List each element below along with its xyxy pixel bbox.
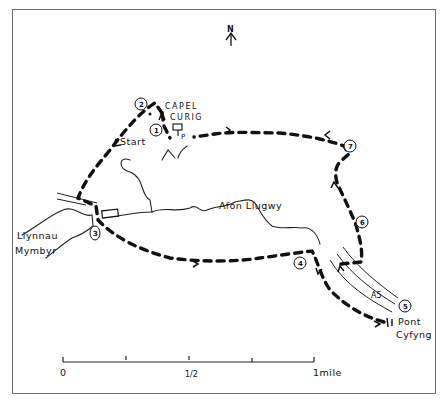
- building-icon: [102, 209, 119, 218]
- scale-label-zero: 0: [60, 367, 67, 378]
- north-arrow-icon: [226, 33, 236, 46]
- waypoint-3: 3: [90, 226, 100, 240]
- scale-bar: [63, 356, 314, 362]
- svg-text:7: 7: [348, 143, 353, 151]
- bridge-label-line1: Pont: [398, 316, 421, 327]
- waypoint-2: 2: [135, 98, 147, 110]
- scale-label-mile: 1mile: [313, 367, 342, 378]
- waypoint-6: 6: [356, 216, 368, 228]
- scale-label-half: 1/2: [185, 370, 198, 379]
- svg-text:1: 1: [154, 127, 159, 135]
- start-label: Start: [120, 136, 146, 147]
- river-label: Afon Llugwy: [219, 200, 282, 211]
- svg-text:5: 5: [403, 303, 408, 311]
- svg-text:2: 2: [139, 101, 144, 109]
- svg-text:4: 4: [298, 260, 303, 268]
- road-label-a5: A5: [371, 291, 382, 300]
- lake-label-line1: Llynnau: [17, 230, 58, 241]
- road-west-line: [57, 199, 86, 205]
- bridge-label-line2: Cyfyng: [396, 329, 432, 340]
- waypoint-4: 4: [294, 257, 306, 269]
- waypoint-5: 5: [399, 300, 411, 312]
- route-map: N 1 2: [0, 0, 445, 405]
- north-label: N: [227, 25, 234, 34]
- lake-label-line2: Mymbyr: [15, 245, 57, 256]
- svg-text:6: 6: [360, 219, 365, 227]
- bridge-icon: [387, 318, 392, 327]
- walking-route-return: [194, 132, 362, 264]
- village-label-curig: CURIG: [170, 113, 203, 122]
- waypoint-1: 1: [150, 124, 162, 136]
- waypoint-7: 7: [344, 140, 356, 152]
- svg-text:3: 3: [93, 230, 98, 238]
- parking-label: P: [181, 133, 185, 141]
- village-label-capel: CAPEL: [165, 102, 198, 111]
